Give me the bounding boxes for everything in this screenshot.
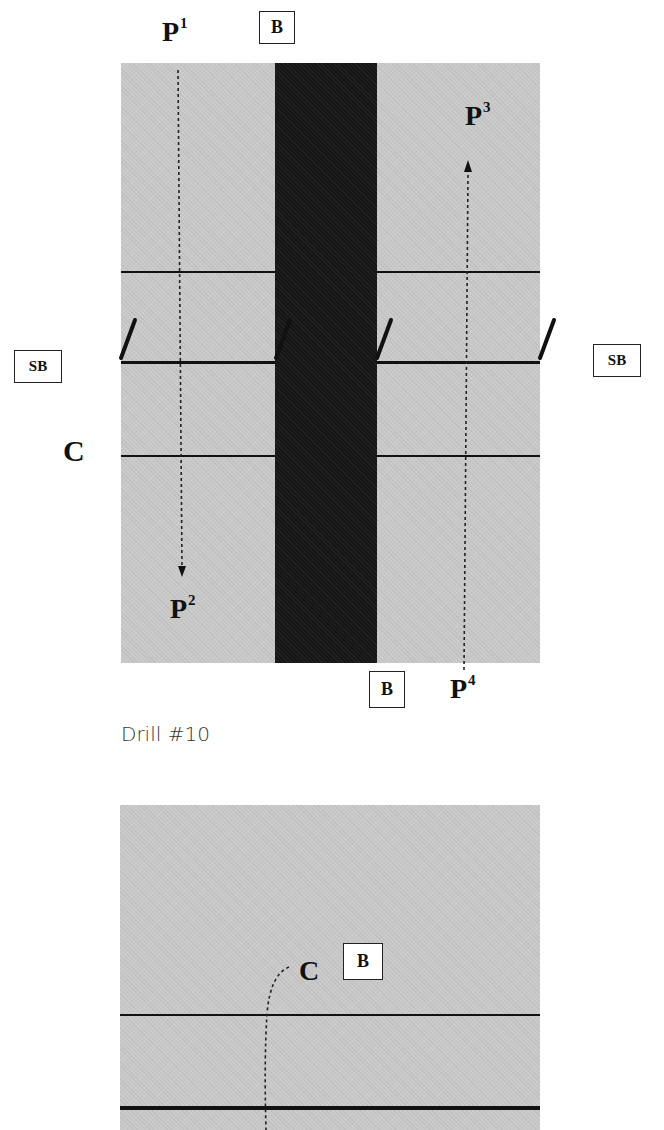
label-c-2: C bbox=[299, 957, 319, 985]
drill-caption: Drill #10 bbox=[121, 722, 210, 746]
center-lane bbox=[275, 63, 377, 663]
box-label-b-bottom: B bbox=[369, 671, 405, 708]
box-label-sb-right: SB bbox=[593, 344, 641, 377]
box-label-b-top: B bbox=[259, 11, 295, 44]
box-label-sb-left: SB bbox=[14, 350, 62, 383]
court-line-upper-left bbox=[121, 271, 275, 273]
court-area-2 bbox=[120, 805, 540, 1130]
box-label-b-2: B bbox=[343, 943, 383, 980]
label-c: C bbox=[63, 436, 85, 466]
mid-line-right bbox=[377, 361, 540, 364]
label-p4: P4 bbox=[450, 675, 476, 703]
mid-line-left bbox=[121, 361, 275, 364]
court-line-lower-right bbox=[377, 455, 540, 457]
court-line-lower-left bbox=[121, 455, 275, 457]
label-p3: P3 bbox=[465, 102, 491, 130]
court-line-2-upper bbox=[120, 1014, 540, 1016]
label-p2: P2 bbox=[170, 595, 196, 623]
label-p1: P1 bbox=[162, 18, 188, 46]
court-line-upper-right bbox=[377, 271, 540, 273]
court-line-2-lower bbox=[120, 1106, 540, 1110]
